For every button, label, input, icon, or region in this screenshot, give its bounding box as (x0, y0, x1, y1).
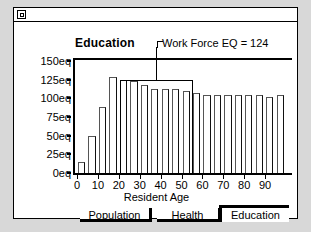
y-axis-line (73, 59, 75, 175)
tab-health-label: Health (172, 209, 204, 221)
y-tick-mark (67, 79, 71, 81)
y-tick-mark (67, 172, 71, 174)
tab-population[interactable]: Population (80, 208, 152, 222)
x-tick-label: 0 (74, 179, 80, 191)
y-tick-mark (67, 97, 71, 99)
bar (256, 95, 263, 173)
window-titlebar[interactable] (14, 8, 297, 22)
y-tick-mark (67, 135, 71, 137)
x-tick-label: 30 (134, 179, 146, 191)
x-axis-title: Resident Age (14, 191, 299, 203)
x-tick-label: 10 (92, 179, 104, 191)
chart-window: Education Work Force EQ = 124 150eq125eq… (13, 7, 298, 219)
bar (88, 136, 95, 173)
y-axis: 150eq125eq100eq75eq50eq25eq0eq (14, 59, 71, 175)
tab-population-label: Population (89, 209, 141, 221)
tab-education-label: Education (231, 209, 280, 221)
window-content: Education Work Force EQ = 124 150eq125eq… (14, 22, 297, 218)
work-force-bracket-stem (156, 47, 157, 80)
bar (235, 95, 242, 173)
annotation-leader-icon (157, 41, 163, 48)
x-tick-label: 40 (154, 179, 166, 191)
y-tick-mark (67, 153, 71, 155)
y-tick-mark (67, 60, 71, 62)
y-tick-mark (67, 116, 71, 118)
x-tick-label: 80 (238, 179, 250, 191)
x-tick-label: 70 (217, 179, 229, 191)
x-tick-label: 50 (175, 179, 187, 191)
work-force-bracket-outline (120, 80, 193, 173)
x-tick-label: 90 (259, 179, 271, 191)
bar (99, 107, 106, 173)
bar (277, 95, 284, 173)
plot-area (73, 59, 292, 175)
bar (224, 95, 231, 173)
bar (214, 95, 221, 173)
tab-bar: Population Health Education (14, 205, 299, 222)
x-tick-label: 20 (113, 179, 125, 191)
bar (193, 93, 200, 173)
bar (203, 95, 210, 173)
bar (245, 95, 252, 173)
bar (266, 97, 273, 173)
tab-education-underline (219, 205, 289, 208)
bar (78, 162, 85, 173)
tab-health[interactable]: Health (157, 208, 221, 222)
work-force-annotation-label: Work Force EQ = 124 (162, 37, 268, 49)
bar (109, 77, 116, 173)
x-tick-label: 60 (196, 179, 208, 191)
chart-title: Education (75, 36, 135, 50)
close-box-icon[interactable] (17, 10, 26, 19)
